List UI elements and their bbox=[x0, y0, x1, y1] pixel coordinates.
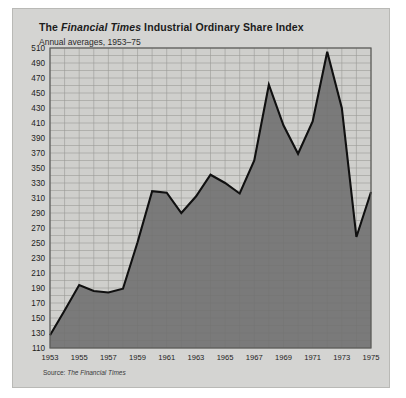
y-axis-tick-label: 390 bbox=[31, 134, 45, 143]
y-axis-tick-label: 350 bbox=[31, 164, 45, 173]
x-axis-tick-label: 1953 bbox=[42, 353, 59, 362]
y-axis-tick-label: 210 bbox=[31, 269, 45, 278]
y-axis-tick-label: 370 bbox=[31, 149, 45, 158]
y-axis-tick-label: 310 bbox=[31, 194, 45, 203]
y-axis-tick-label: 130 bbox=[31, 329, 45, 338]
y-axis-tick-label: 410 bbox=[31, 119, 45, 128]
x-axis-tick-label: 1957 bbox=[100, 353, 117, 362]
x-axis-tick-label: 1973 bbox=[333, 353, 350, 362]
y-axis-tick-label: 470 bbox=[31, 74, 45, 83]
y-axis-tick-label: 230 bbox=[31, 254, 45, 263]
y-axis-tick-label: 110 bbox=[32, 344, 45, 353]
y-axis-tick-label: 170 bbox=[31, 299, 45, 308]
y-axis-tick-label: 190 bbox=[31, 284, 45, 293]
x-axis-tick-label: 1975 bbox=[363, 353, 380, 362]
y-axis-tick-label: 490 bbox=[31, 59, 45, 68]
chart-plot-container: 1101301501701902102302502702903103303503… bbox=[0, 0, 406, 398]
x-axis-tick-label: 1969 bbox=[275, 353, 292, 362]
y-axis-tick-label: 450 bbox=[31, 89, 45, 98]
x-axis-tick-label: 1959 bbox=[129, 353, 146, 362]
y-axis-tick-label: 430 bbox=[31, 104, 45, 113]
y-axis-labels: 1101301501701902102302502702903103303503… bbox=[31, 44, 45, 353]
y-axis-tick-label: 330 bbox=[31, 179, 45, 188]
y-axis-tick-label: 510 bbox=[31, 44, 45, 53]
x-axis-tick-label: 1963 bbox=[187, 353, 204, 362]
x-axis-tick-label: 1955 bbox=[71, 353, 88, 362]
area-chart: 1101301501701902102302502702903103303503… bbox=[0, 0, 406, 398]
y-axis-tick-label: 270 bbox=[31, 224, 45, 233]
y-axis-tick-label: 250 bbox=[31, 239, 45, 248]
x-axis-labels: 1953195519571959196119631965196719691971… bbox=[42, 353, 380, 362]
y-axis-tick-label: 290 bbox=[31, 209, 45, 218]
x-axis-tick-label: 1971 bbox=[304, 353, 321, 362]
x-axis-tick-label: 1967 bbox=[246, 353, 263, 362]
x-axis-tick-label: 1961 bbox=[158, 353, 175, 362]
x-axis-tick-label: 1965 bbox=[217, 353, 234, 362]
y-axis-tick-label: 150 bbox=[31, 314, 45, 323]
